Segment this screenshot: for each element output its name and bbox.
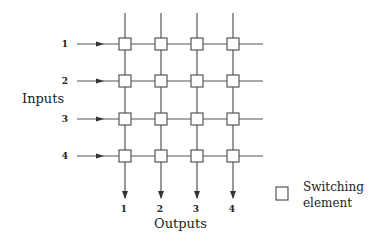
output-number-1: 1 bbox=[121, 204, 127, 214]
input-arrow-icon bbox=[96, 117, 104, 122]
switching-element bbox=[227, 38, 239, 50]
switching-element bbox=[191, 38, 203, 50]
input-number-1: 1 bbox=[62, 39, 68, 49]
input-number-3: 3 bbox=[62, 114, 68, 124]
output-number-4: 4 bbox=[229, 204, 235, 214]
switching-element bbox=[227, 150, 239, 162]
switching-element bbox=[191, 150, 203, 162]
switching-element bbox=[155, 150, 167, 162]
input-arrow-icon bbox=[96, 42, 104, 47]
switching-element bbox=[191, 113, 203, 125]
switching-element bbox=[191, 75, 203, 87]
legend-text-line1: Switching bbox=[303, 180, 364, 194]
switching-element bbox=[119, 150, 131, 162]
input-arrow-icon bbox=[96, 154, 104, 159]
output-number-2: 2 bbox=[157, 204, 163, 214]
switching-element bbox=[119, 75, 131, 87]
switching-element bbox=[119, 38, 131, 50]
legend-switching-element-icon bbox=[276, 187, 288, 200]
switching-element bbox=[227, 113, 239, 125]
switching-element bbox=[227, 75, 239, 87]
input-number-2: 2 bbox=[62, 76, 68, 86]
outputs-label: Outputs bbox=[154, 216, 207, 231]
crossbar-switch-diagram: 1 2 3 4 Inputs 1 2 3 4 Outputs Switching… bbox=[0, 0, 379, 242]
input-number-4: 4 bbox=[62, 151, 68, 161]
switching-element bbox=[155, 113, 167, 125]
switching-element bbox=[155, 75, 167, 87]
legend-text-line2: element bbox=[303, 196, 352, 210]
switching-element bbox=[119, 113, 131, 125]
inputs-label: Inputs bbox=[22, 91, 64, 106]
output-number-3: 3 bbox=[193, 204, 199, 214]
input-arrow-icon bbox=[96, 79, 104, 84]
switching-element bbox=[155, 38, 167, 50]
